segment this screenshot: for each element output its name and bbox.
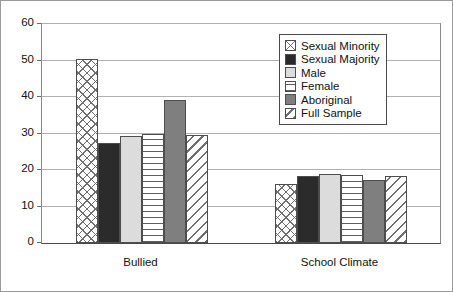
bar-male[interactable]	[319, 174, 341, 243]
legend-label: Aboriginal	[301, 94, 352, 106]
bar-sexual-majority[interactable]	[98, 143, 120, 243]
legend-swatch-icon	[285, 94, 296, 105]
legend-swatch-icon	[285, 108, 296, 119]
y-axis-tick-label: 10	[1, 200, 34, 212]
legend-item[interactable]: Female	[285, 80, 380, 94]
bar-female[interactable]	[341, 175, 363, 243]
legend-label: Male	[301, 67, 326, 79]
legend-label: Sexual Majority	[301, 53, 380, 65]
y-axis-tick-label: 60	[1, 17, 34, 29]
bar-group	[76, 24, 208, 243]
bar-aboriginal[interactable]	[164, 100, 186, 243]
y-axis-tick-label: 30	[1, 127, 34, 139]
bar-sexual-majority[interactable]	[297, 176, 319, 243]
legend-item[interactable]: Sexual Majority	[285, 53, 380, 67]
legend-label: Female	[301, 80, 339, 92]
bar-full-sample[interactable]	[186, 135, 208, 243]
legend-label: Full Sample	[301, 107, 362, 119]
bar-female[interactable]	[142, 134, 164, 243]
bar-male[interactable]	[120, 136, 142, 243]
legend-swatch-icon	[285, 54, 296, 65]
bar-full-sample[interactable]	[385, 176, 407, 243]
y-axis-tick-label: 50	[1, 54, 34, 66]
y-axis-tick-label: 20	[1, 163, 34, 175]
legend-item[interactable]: Full Sample	[285, 107, 380, 121]
x-axis-category-label: School Climate	[240, 256, 439, 268]
legend-swatch-icon	[285, 40, 296, 51]
legend-label: Sexual Minority	[301, 40, 380, 52]
bar-sexual-minority[interactable]	[275, 184, 297, 243]
y-axis-tick-label: 0	[1, 236, 34, 248]
legend-swatch-icon	[285, 81, 296, 92]
legend-item[interactable]: Aboriginal	[285, 93, 380, 107]
bar-chart-figure: 0102030405060 BulliedSchool Climate Sexu…	[0, 0, 453, 292]
bar-sexual-minority[interactable]	[76, 59, 98, 243]
x-axis-category-label: Bullied	[41, 256, 240, 268]
legend-swatch-icon	[285, 67, 296, 78]
legend-item[interactable]: Sexual Minority	[285, 39, 380, 53]
bar-aboriginal[interactable]	[363, 180, 385, 243]
chart-legend: Sexual MinoritySexual MajorityMaleFemale…	[279, 34, 387, 125]
y-axis-tick-label: 40	[1, 90, 34, 102]
legend-item[interactable]: Male	[285, 66, 380, 80]
